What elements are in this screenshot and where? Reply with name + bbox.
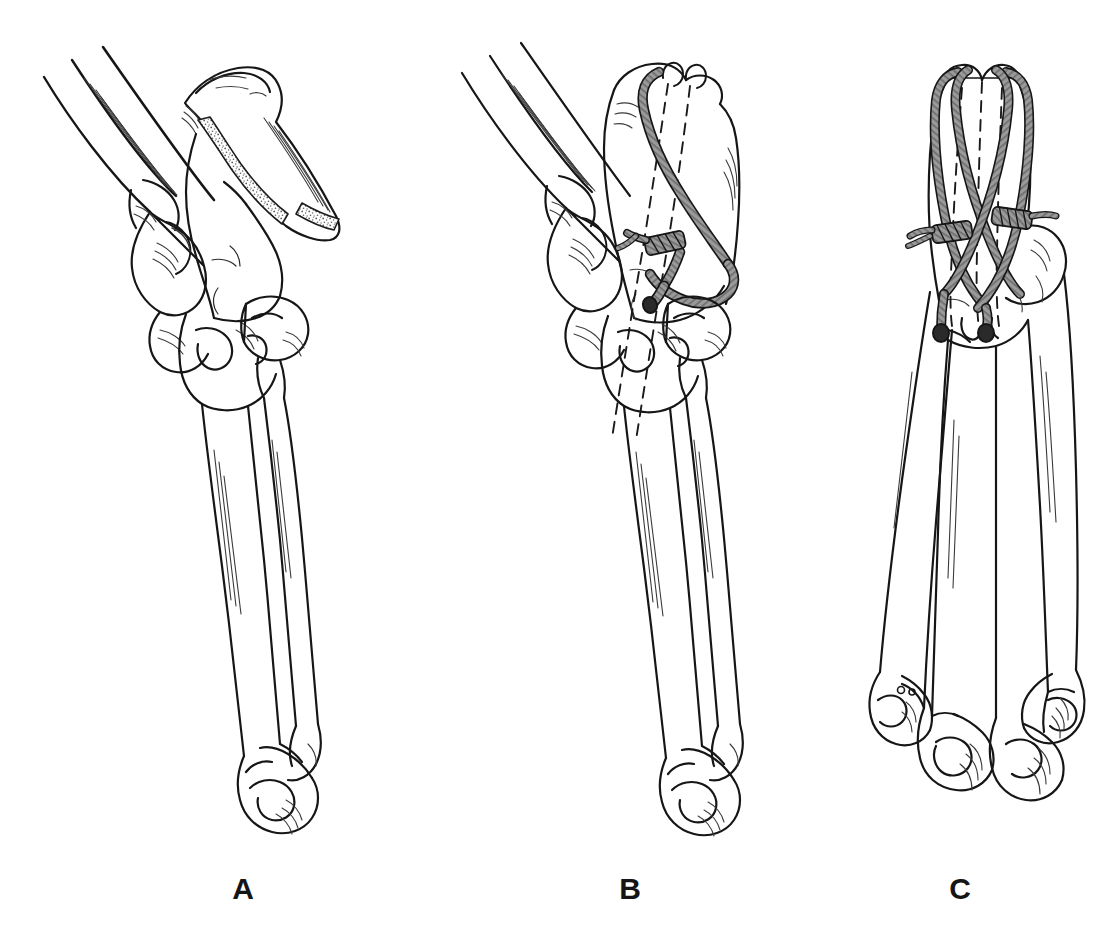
figure-root: A B C [0, 0, 1107, 939]
panel-label-b: B [600, 872, 660, 906]
panel-label-a: A [213, 872, 273, 906]
panel-label-c: C [930, 872, 990, 906]
anatomical-illustration [0, 0, 1107, 939]
